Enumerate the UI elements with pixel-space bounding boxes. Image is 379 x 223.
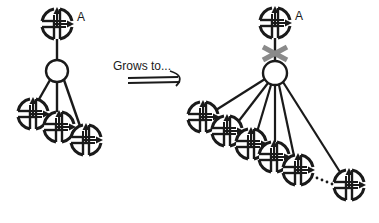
edge [257, 85, 271, 132]
edge [238, 83, 268, 122]
before-graph: A [18, 7, 103, 155]
hub-node [46, 60, 68, 82]
root-label: A [295, 9, 303, 23]
hub-node [263, 61, 287, 85]
after-graph: A [188, 6, 366, 200]
root-node-icon [260, 6, 292, 38]
arrow-label: Grows to... [113, 59, 171, 73]
child-node-icon [334, 168, 366, 200]
edge [216, 79, 265, 110]
child-node-icon [71, 123, 103, 155]
arrow-head-icon [170, 71, 180, 86]
diagram-canvas: A Grows to... A [0, 0, 379, 223]
edge [38, 80, 50, 101]
child-node-icon [283, 153, 315, 185]
ellipsis-dots [316, 177, 334, 186]
grows-arrow: Grows to... [113, 59, 180, 86]
root-node-icon [42, 7, 74, 39]
root-label: A [77, 10, 85, 24]
